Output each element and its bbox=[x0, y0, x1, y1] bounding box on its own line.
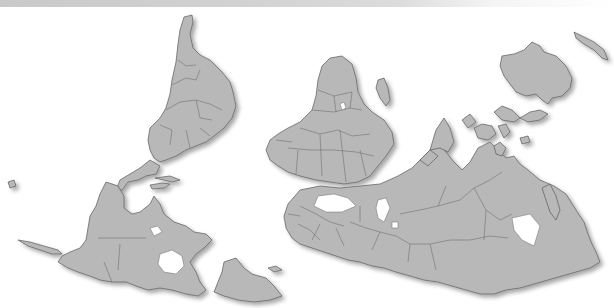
africa bbox=[266, 56, 394, 184]
australia bbox=[500, 42, 572, 104]
iceland bbox=[268, 266, 282, 272]
world-map bbox=[0, 0, 614, 308]
greenland bbox=[214, 258, 282, 302]
southeast-asia bbox=[462, 106, 548, 156]
aleutians bbox=[18, 240, 62, 254]
small-island bbox=[8, 180, 16, 188]
new-zealand bbox=[574, 32, 608, 60]
india bbox=[430, 118, 454, 152]
north-america bbox=[58, 182, 212, 296]
madagascar bbox=[376, 78, 390, 106]
central-america bbox=[116, 160, 180, 190]
south-america bbox=[148, 15, 236, 162]
